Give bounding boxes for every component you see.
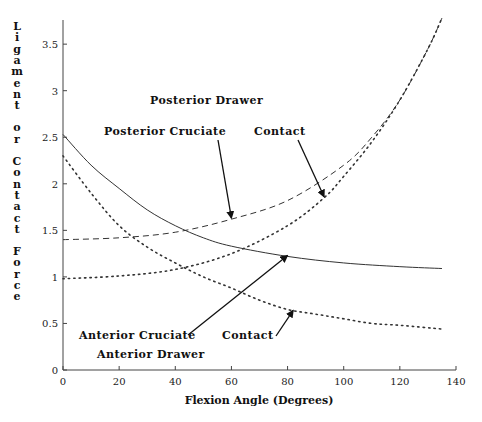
y-tick-label: 1.5: [42, 225, 58, 236]
y-axis-label: LigamentorContactForce: [11, 20, 23, 303]
x-tick-label: 100: [334, 376, 353, 387]
annotation-label: Contact: [222, 329, 274, 342]
x-tick-label: 20: [113, 376, 126, 387]
y-tick-label: 1: [52, 272, 58, 283]
x-tick-label: 60: [225, 376, 238, 387]
y-label-char: r: [14, 133, 20, 146]
annotation-arrow: [276, 310, 293, 336]
y-tick-label: 0.5: [42, 318, 58, 329]
annotation-label: Posterior Drawer: [150, 94, 263, 107]
annotation-label: Posterior Cruciate: [104, 125, 226, 138]
x-tick-label: 0: [60, 376, 66, 387]
x-tick-label: 80: [281, 376, 294, 387]
x-axis-label: Flexion Angle (Degrees): [185, 394, 334, 407]
annotation-label: Contact: [254, 125, 306, 138]
series-contact-anterior-drawer: [63, 156, 442, 329]
y-tick-label: 3: [52, 86, 58, 97]
annotation-label: Anterior Cruciate: [78, 329, 196, 342]
y-tick-label: 2.5: [42, 132, 58, 143]
y-tick-label: 2: [52, 179, 58, 190]
y-tick-label: 0: [52, 365, 58, 376]
annotation-arrow: [188, 255, 288, 335]
y-tick-label: 3.5: [42, 39, 58, 50]
y-label-char: e: [14, 290, 21, 303]
x-tick-label: 40: [169, 376, 182, 387]
y-label-char: t: [14, 99, 20, 112]
annotation-arrow: [298, 140, 324, 197]
chart-svg: 00.511.522.533.5020406080100120140 Poste…: [0, 0, 482, 422]
annotation-label: Anterior Drawer: [96, 348, 205, 361]
series-contact-posterior-drawer: [63, 18, 442, 279]
series-anterior-cruciate: [63, 134, 442, 268]
x-tick-label: 120: [390, 376, 409, 387]
y-label-char: t: [14, 223, 20, 236]
series-layer: [63, 18, 442, 329]
annotations-layer: Posterior DrawerPosterior CruciateContac…: [78, 94, 324, 361]
x-tick-label: 140: [446, 376, 465, 387]
annotation-arrow: [218, 140, 231, 218]
